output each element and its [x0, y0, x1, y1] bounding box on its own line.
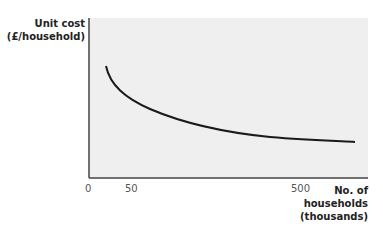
x-tick-50: 50 [125, 183, 138, 194]
y-axis-label: Unit cost (£/household) [7, 17, 85, 43]
x-tick-0: 0 [85, 183, 91, 194]
x-axis-label: No. of households (thousands) [300, 184, 368, 223]
